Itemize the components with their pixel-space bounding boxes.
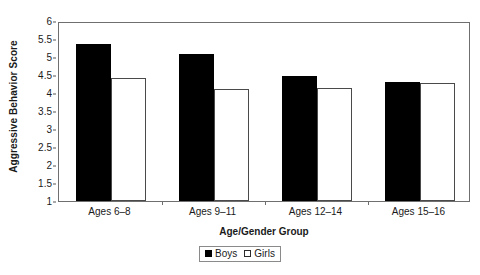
legend-label: Girls [254, 248, 275, 259]
y-axis-tick-mark [53, 130, 56, 131]
x-axis-tick-label: Ages 12–14 [289, 206, 342, 217]
y-axis-tick-label: 1.5 [38, 179, 52, 189]
bar-group [265, 23, 368, 201]
y-axis-tick-mark [53, 184, 56, 185]
y-axis-tick-mark [53, 58, 56, 59]
bar-boys [385, 82, 420, 201]
x-axis-tick-label: Ages 9–11 [189, 206, 236, 217]
bar-boys [179, 54, 214, 201]
x-axis-tick-label: Ages 6–8 [88, 206, 130, 217]
bar-girls [317, 88, 352, 201]
legend-swatch-icon [244, 250, 251, 257]
x-axis-tick-mark [368, 201, 369, 205]
legend-label: Boys [215, 248, 237, 259]
y-axis-tick-label: 5 [46, 53, 52, 63]
bars-container [59, 23, 469, 201]
y-axis-tick-mark [53, 22, 56, 23]
y-axis-tick-label: 3 [46, 125, 52, 135]
y-axis-tick-mark [53, 40, 56, 41]
bar-group [59, 23, 162, 201]
y-axis-tick-label: 4 [46, 89, 52, 99]
y-axis-tick-mark [53, 112, 56, 113]
bar-girls [214, 89, 249, 201]
bar-boys [282, 76, 317, 201]
y-axis-tick-label: 5.5 [38, 35, 52, 45]
x-axis-tick-mark [162, 201, 163, 205]
bar-boys [76, 44, 111, 201]
plot-area [58, 22, 470, 202]
y-axis-tick-mark [53, 76, 56, 77]
bar-group [162, 23, 265, 201]
legend: BoysGirls [0, 246, 480, 262]
y-axis-tick-label: 2 [46, 161, 52, 171]
y-axis-tick-label: 2.5 [38, 143, 52, 153]
x-axis-tick-mark [265, 201, 266, 205]
y-axis-title: Aggressive Behavior Score [0, 0, 26, 212]
bar-chart-figure: Aggressive Behavior Score 11.522.533.544… [0, 0, 480, 275]
bar-girls [420, 83, 455, 201]
x-axis-title: Age/Gender Group [58, 226, 470, 237]
legend-item-boys: Boys [205, 248, 237, 259]
legend-item-girls: Girls [244, 248, 275, 259]
y-axis-tick-label: 3.5 [38, 107, 52, 117]
y-axis-tick-mark [53, 202, 56, 203]
y-axis-tick-label: 4.5 [38, 71, 52, 81]
y-axis-tick-label: 6 [46, 17, 52, 27]
legend-box: BoysGirls [199, 246, 281, 262]
y-axis-tick-mark [53, 166, 56, 167]
y-axis-tick-label: 1 [46, 197, 52, 207]
y-axis-tick-labels: 11.522.533.544.555.56 [26, 0, 56, 212]
x-axis-tick-labels: Ages 6–8Ages 9–11Ages 12–14Ages 15–16 [58, 206, 470, 222]
bar-group [368, 23, 471, 201]
legend-swatch-icon [205, 250, 212, 257]
x-axis-tick-label: Ages 15–16 [392, 206, 445, 217]
y-axis-tick-mark [53, 94, 56, 95]
bar-girls [111, 78, 146, 201]
y-axis-tick-mark [53, 148, 56, 149]
y-axis-title-text: Aggressive Behavior Score [8, 40, 19, 173]
